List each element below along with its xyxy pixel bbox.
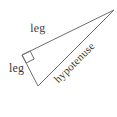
hypotenuse-line <box>38 10 114 86</box>
triangle-graphic <box>0 0 117 117</box>
leg-lower-label: leg <box>9 62 24 74</box>
right-triangle-diagram: leg leg hypotenuse <box>0 0 117 117</box>
leg-upper-label: leg <box>30 22 45 34</box>
